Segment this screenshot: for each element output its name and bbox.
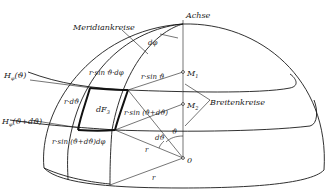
r-sin-theta-dphi-label: r·sin ϑ·dφ (89, 69, 124, 77)
df3-label: dF3 (96, 105, 110, 115)
r-label-2: r (152, 174, 156, 182)
meridian-leader (122, 30, 148, 54)
radius-r-1 (128, 90, 183, 158)
dtheta-arc (159, 141, 164, 148)
point-m2 (182, 103, 185, 106)
point-m1 (182, 71, 185, 74)
origin-label: 0 (187, 156, 192, 165)
h-phi-top-label: Hφ(ϑ) (3, 71, 26, 82)
r-sin-theta-dtheta-dphi-label: r·sin (ϑ+dϑ)dφ (52, 138, 105, 146)
r-sin-theta-dtheta-label: r·sin (ϑ+dϑ) (124, 109, 168, 117)
meridians-label: Meridiankreise (72, 23, 135, 32)
point-origin (182, 157, 185, 160)
surface-element-edge (90, 88, 128, 90)
surface-element-edge (78, 130, 115, 131)
theta-arc (166, 136, 183, 142)
hemisphere-diagram: Achse Meridiankreise Breitenkreise dφ M1… (0, 0, 336, 195)
r-sin-theta-label: r·sin ϑ (141, 73, 164, 81)
dphi-marker (160, 34, 178, 38)
hemisphere-outline (44, 24, 325, 188)
r-dtheta-label: r·dϑ (64, 98, 79, 106)
latitudes-label: Breitenkreise (209, 98, 265, 107)
h-phi-top-arrow (30, 80, 92, 88)
axis-label: Achse (185, 11, 211, 20)
m1-label: M1 (186, 69, 198, 79)
h-phi-bottom-label: Hφ(ϑ+dϑ) (1, 117, 42, 128)
radius-to-m2 (115, 104, 183, 130)
theta-label: ϑ (172, 128, 177, 136)
dphi-label: dφ (148, 39, 157, 47)
dtheta-label: dϑ (155, 134, 165, 142)
r-label-1: r (145, 146, 149, 154)
m2-label: M2 (186, 101, 198, 111)
radius-r-3 (110, 158, 183, 185)
meridian-2 (110, 24, 183, 185)
